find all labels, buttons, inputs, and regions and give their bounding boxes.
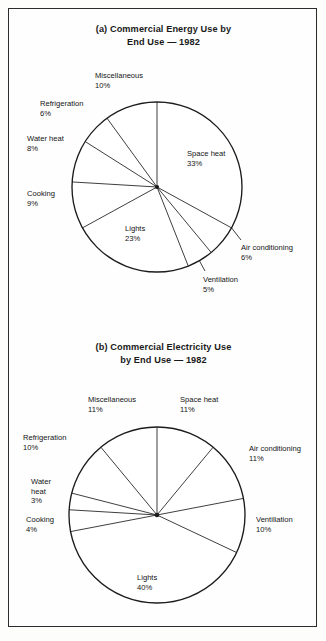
pie-a-hub: [155, 185, 159, 189]
pie-b-label-cooking: Cooking 4%: [26, 515, 54, 534]
pie-b-hub: [155, 513, 160, 518]
pie-a-label-refrigeration: Refrigeration 6%: [40, 99, 83, 118]
pie-b-label-refrigeration: Refrigeration 10%: [23, 433, 66, 452]
figure-frame: (a) Commercial Energy Use by End Use — 1…: [8, 8, 317, 627]
pie-a-label-water-heat: Water heat 8%: [27, 134, 64, 153]
pie-a-label-cooking: Cooking 9%: [27, 189, 55, 208]
pie-a-label-lights: Lights 23%: [125, 224, 145, 243]
pie-a-label-miscellaneous: Miscellaneous 10%: [95, 71, 143, 90]
pie-b-label-air-conditioning: Air conditioning 11%: [249, 444, 301, 463]
pie-chart-b: [9, 319, 318, 629]
pie-panel-b: (b) Commercial Electricity Use by End Us…: [9, 319, 318, 628]
pie-a-label-ventilation: Ventilation 5%: [203, 275, 238, 294]
pie-a-label-space-heat: Space heat 33%: [187, 149, 225, 168]
pie-b-label-lights: Lights 40%: [137, 573, 157, 592]
pie-panel-a: (a) Commercial Energy Use by End Use — 1…: [9, 9, 318, 319]
pie-chart-a: [9, 9, 318, 319]
pie-a-leader-ventilation: [199, 260, 205, 271]
pie-b-label-ventilation: Ventiliation 10%: [256, 515, 293, 534]
pie-b-label-space-heat: Space heat 11%: [180, 395, 218, 414]
pie-b-label-miscellaneous: Miscellaneous 11%: [88, 395, 136, 414]
pie-a-leader-air-conditioning: [232, 228, 241, 240]
pie-b-label-water-heat: Water heat 3%: [31, 477, 51, 506]
figure-root: (a) Commercial Energy Use by End Use — 1…: [0, 0, 326, 641]
pie-a-label-air-conditioning: Air conditioning 6%: [241, 243, 293, 262]
